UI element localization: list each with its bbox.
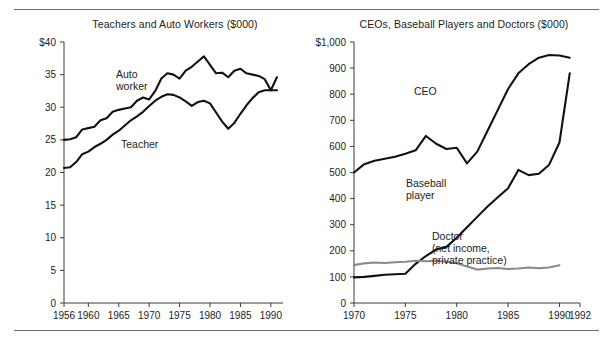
- series-line-teacher: [64, 90, 277, 168]
- x-tick-label: 1985: [229, 310, 252, 321]
- chart-axes: [64, 42, 283, 303]
- chart-svg-right: 0100200300400500600700800900$1,000197019…: [296, 0, 608, 330]
- x-tick-label: 1975: [394, 310, 417, 321]
- y-tick-label: 900: [329, 63, 346, 74]
- series-line-ceo: [354, 55, 570, 172]
- series-line-auto: [64, 56, 277, 140]
- series-label-auto-worker: Autoworker: [115, 68, 148, 92]
- series-label-doctor: Doctor(net income,private practice): [432, 230, 507, 266]
- bottom-divider-rule: [14, 330, 599, 331]
- chart-svg-left: 05101520253035$4019561960196519701975198…: [8, 0, 298, 330]
- x-tick-label: 1975: [168, 310, 191, 321]
- figure-root: Teachers and Auto Workers ($000) 0510152…: [0, 0, 613, 342]
- series-label-baseball-player: Baseballplayer: [406, 177, 446, 201]
- y-tick-label: 5: [50, 265, 56, 276]
- x-tick-label: 1970: [138, 310, 161, 321]
- series-label-ceo: CEO: [414, 85, 437, 97]
- y-tick-label: $1,000: [315, 37, 346, 48]
- y-tick-label: 100: [329, 272, 346, 283]
- y-tick-label: 15: [45, 200, 57, 211]
- y-tick-label: 20: [45, 167, 57, 178]
- x-tick-label: 1960: [77, 310, 100, 321]
- y-tick-label: 300: [329, 219, 346, 230]
- y-tick-label: 200: [329, 245, 346, 256]
- y-tick-label: 600: [329, 141, 346, 152]
- x-tick-label: 1956: [53, 310, 76, 321]
- x-tick-label: 1980: [446, 310, 469, 321]
- y-tick-label: 0: [50, 298, 56, 309]
- y-tick-label: 800: [329, 89, 346, 100]
- y-tick-label: 35: [45, 69, 57, 80]
- y-tick-label: 0: [340, 298, 346, 309]
- x-tick-label: 1970: [343, 310, 366, 321]
- y-tick-label: $40: [39, 37, 56, 48]
- chart-panel-teachers-auto-workers: Teachers and Auto Workers ($000) 0510152…: [8, 0, 298, 330]
- x-tick-label: 1985: [497, 310, 520, 321]
- y-tick-label: 10: [45, 232, 57, 243]
- x-tick-label: 1992: [569, 310, 592, 321]
- y-tick-label: 700: [329, 115, 346, 126]
- x-tick-label: 1990: [548, 310, 571, 321]
- x-tick-label: 1990: [260, 310, 283, 321]
- y-tick-label: 500: [329, 167, 346, 178]
- y-tick-label: 30: [45, 102, 57, 113]
- y-tick-label: 400: [329, 193, 346, 204]
- y-tick-label: 25: [45, 134, 57, 145]
- chart-panel-ceos-baseball-doctors: CEOs, Baseball Players and Doctors ($000…: [296, 0, 608, 330]
- x-tick-label: 1965: [108, 310, 131, 321]
- series-label-teacher: Teacher: [121, 138, 159, 150]
- x-tick-label: 1980: [199, 310, 222, 321]
